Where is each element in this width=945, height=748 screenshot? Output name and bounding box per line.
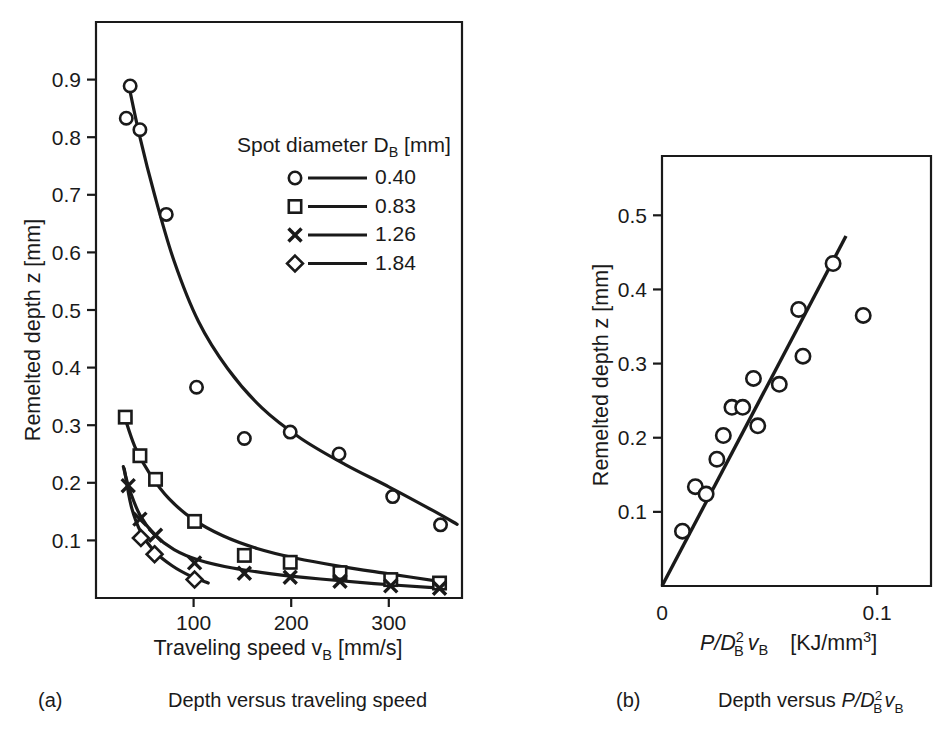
panel-a-y-tick-label: 0.4: [52, 356, 82, 379]
legend-label-1.26: 1.26: [375, 222, 416, 245]
captions: (a) Depth versus traveling speed (b) Dep…: [38, 688, 903, 716]
panel-b-xlabel-p: P: [700, 631, 715, 655]
panel-a-marker-circle: [284, 426, 296, 438]
panel-b-x-axis-title: P/D2BvB[KJ/mm3]: [700, 629, 877, 659]
legend-title-main: Spot diameter D: [237, 133, 389, 156]
panel-b-caption-d-sub: B: [873, 701, 882, 716]
panel-a-y-tick-label: 0.3: [52, 414, 81, 437]
panel-b-marker-circle: [710, 452, 724, 466]
panel-b-xlabel-v-sub: B: [759, 642, 769, 658]
panel-b-marker-circle: [772, 377, 786, 391]
panel-b-xlabel-d-sub: B: [734, 643, 744, 659]
legend-label-1.84: 1.84: [375, 251, 416, 274]
legend-title-unit: [mm]: [398, 133, 451, 156]
panel-b-xlabel-unit-end: ]: [871, 631, 877, 655]
panel-a-marker-circle: [434, 519, 446, 531]
panel-a-frame: [96, 22, 462, 598]
panel-b-label: (b): [616, 689, 640, 711]
panel-a-marker-square: [238, 549, 250, 561]
panel-b-y-tick-label: 0.4: [618, 278, 648, 301]
panel-a-marker-diamond: [147, 546, 163, 562]
panel-a-x-tick-label: 300: [371, 611, 406, 634]
panel-a-y-tick-label: 0.9: [52, 68, 81, 91]
panel-b-caption-v-sub: B: [894, 701, 903, 716]
panel-a-y-tick-label: 0.7: [52, 183, 81, 206]
panel-b-tick-labels: 0.10.20.30.40.500.1: [618, 204, 892, 624]
panel-a-marker-circle: [190, 381, 202, 393]
figure-svg: 0.10.20.30.40.50.60.70.80.9100200300 Spo…: [0, 0, 945, 748]
panel-b-xlabel-unit-sup: 3: [863, 629, 871, 645]
panel-b-marker-circle: [736, 400, 750, 414]
panel-b-y-tick-label: 0.5: [618, 204, 647, 227]
legend-title: Spot diameter DB [mm]: [237, 133, 451, 160]
panel-b: 0.10.20.30.40.500.1 Remelted depth z [mm…: [589, 156, 931, 659]
legend-marker-square: [289, 200, 301, 212]
panel-a-marker-circle: [333, 448, 345, 460]
legend-marker-cross: [288, 228, 301, 241]
panel-b-xlabel-unit: [KJ/mm: [790, 631, 863, 655]
panel-a-marker-square: [119, 411, 131, 423]
panel-b-x-tick-label: 0: [656, 601, 668, 624]
panel-b-caption-p: P: [841, 689, 855, 711]
panel-a-marker-circle: [120, 112, 132, 124]
panel-b-marker-circle: [826, 256, 840, 270]
panel-b-marker-circle: [675, 524, 689, 538]
legend-label-0.40: 0.40: [375, 165, 416, 188]
legend-title-sub: B: [389, 144, 399, 160]
panel-a-x-tick-label: 100: [176, 611, 211, 634]
panel-a-marker-square: [149, 473, 161, 485]
panel-b-frame-rect: [662, 156, 931, 586]
panel-b-marker-circle: [716, 428, 730, 442]
panel-b-marker-circle: [796, 349, 810, 363]
panel-b-marker-circle: [856, 308, 870, 322]
panel-a-marker-circle: [124, 80, 136, 92]
panel-a-marker-circle: [160, 208, 172, 220]
panel-a: 0.10.20.30.40.50.60.70.80.9100200300 Spo…: [21, 22, 462, 663]
panel-a-caption: Depth versus traveling speed: [168, 689, 427, 711]
panel-a-marker-square: [284, 556, 296, 568]
panel-a-y-tick-label: 0.6: [52, 241, 81, 264]
panel-a-x-axis-title-sub: B: [322, 647, 332, 663]
panel-b-y-tick-label: 0.2: [618, 426, 647, 449]
panel-b-marker-circle: [746, 371, 760, 385]
panel-a-marker-cross: [149, 529, 162, 542]
figure-container: 0.10.20.30.40.50.60.70.80.9100200300 Spo…: [0, 0, 945, 748]
panel-a-marker-circle: [134, 124, 146, 136]
panel-a-x-axis-title-main: Traveling speed v: [153, 636, 322, 660]
panel-b-x-tick-label: 0.1: [863, 601, 892, 624]
panel-a-marker-square: [188, 515, 200, 527]
legend-label-0.83: 0.83: [375, 194, 416, 217]
panel-a-y-tick-label: 0.8: [52, 126, 81, 149]
panel-a-legend: Spot diameter DB [mm]0.400.831.261.84: [237, 133, 451, 274]
legend-marker-circle: [289, 172, 301, 184]
panel-a-x-tick-label: 200: [274, 611, 309, 634]
panel-b-caption-prefix: Depth versus: [718, 689, 841, 711]
legend-marker-diamond: [287, 256, 303, 272]
panel-a-y-tick-label: 0.2: [52, 471, 81, 494]
panel-b-y-tick-label: 0.3: [618, 352, 647, 375]
panel-a-x-axis-title-unit: [mm/s]: [332, 636, 402, 660]
panel-a-y-axis-title: Remelted depth z [mm]: [21, 219, 45, 441]
panel-a-curves: [123, 82, 457, 587]
panel-a-y-tick-label: 0.1: [52, 529, 81, 552]
panel-a-x-axis-title: Traveling speed vB [mm/s]: [153, 636, 402, 663]
panel-a-frame-rect: [96, 22, 462, 598]
panel-b-marker-circle: [791, 302, 805, 316]
panel-a-y-tick-label: 0.5: [52, 299, 81, 322]
panel-a-marker-square: [134, 450, 146, 462]
panel-a-ticks: [87, 80, 389, 607]
panel-b-marker-circle: [751, 419, 765, 433]
panel-a-marker-circle: [387, 490, 399, 502]
panel-b-y-tick-label: 0.1: [618, 500, 647, 523]
panel-b-marker-circle: [699, 487, 713, 501]
panel-b-frame: [662, 156, 931, 586]
panel-b-y-axis-title: Remelted depth z [mm]: [589, 264, 613, 486]
panel-a-marker-circle: [238, 432, 250, 444]
panel-a-label: (a): [38, 689, 62, 711]
panel-b-data-markers: [675, 256, 870, 538]
panel-b-caption: Depth versus P/D2BvB: [718, 688, 903, 716]
